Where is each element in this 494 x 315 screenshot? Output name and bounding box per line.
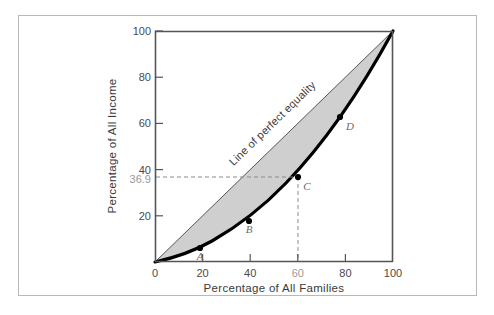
data-point-a-label: A — [196, 250, 204, 262]
data-point-c-label: C — [303, 180, 311, 192]
data-point-c-marker — [295, 174, 301, 180]
data-point-d-marker — [337, 114, 343, 120]
x-tick-label-80: 80 — [339, 267, 351, 279]
line-of-perfect-equality — [155, 31, 393, 262]
y-tick-label-60: 60 — [139, 117, 151, 129]
y-tick-label-36-9: 36.9 — [130, 173, 151, 185]
x-tick-label-100: 100 — [384, 267, 402, 279]
chart-canvas: 100 80 60 40 36.9 20 0 20 40 60 80 100 P… — [0, 0, 494, 315]
x-tick-label-20: 20 — [196, 267, 208, 279]
lorenz-curve-figure: 100 80 60 40 36.9 20 0 20 40 60 80 100 P… — [0, 0, 494, 315]
x-tick-label-0: 0 — [152, 267, 158, 279]
data-point-b-label: B — [246, 223, 253, 235]
y-axis-title: Percentage of All Income — [106, 78, 118, 213]
x-tick-label-60: 60 — [292, 267, 304, 279]
y-tick-label-100: 100 — [133, 25, 151, 37]
x-tick-label-40: 40 — [244, 267, 256, 279]
x-axis-title: Percentage of All Families — [204, 282, 345, 294]
y-tick-label-20: 20 — [139, 210, 151, 222]
y-tick-label-80: 80 — [139, 71, 151, 83]
data-point-d-label: D — [345, 120, 354, 132]
